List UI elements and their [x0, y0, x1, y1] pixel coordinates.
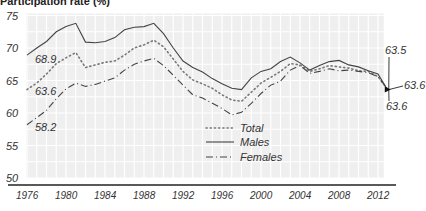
data-label-males: 63.5 [385, 44, 407, 56]
legend-label-females: Females [240, 151, 283, 163]
x-tick-label: 1988 [133, 190, 156, 201]
x-tick-label: 1984 [94, 190, 117, 201]
legend-label-total: Total [240, 122, 264, 134]
y-tick-label: 75 [6, 10, 19, 22]
annotation-arrow [389, 86, 403, 90]
y-tick-label: 70 [6, 42, 19, 54]
data-label-females: 63.6 [386, 100, 408, 112]
x-tick-label: 2008 [327, 190, 351, 201]
x-tick-label: 2004 [288, 190, 312, 201]
data-label-males: 68.9 [35, 53, 56, 65]
data-label-total: 63.6 [35, 85, 57, 97]
y-tick-label: 65 [6, 75, 19, 87]
x-tick-label: 2012 [366, 190, 390, 201]
y-axis-ticks: 505560657075 [6, 10, 19, 185]
data-label-total: 63.6 [404, 79, 426, 91]
x-tick-label: 1992 [172, 190, 195, 201]
y-tick-label: 60 [6, 107, 19, 119]
data-label-females: 58.2 [35, 121, 56, 133]
plot-background [26, 14, 384, 179]
arrowhead-icon [385, 87, 391, 93]
x-axis-ticks: 1976198019841988199219962000200420082012 [16, 190, 390, 201]
x-tick-label: 1980 [55, 190, 78, 201]
y-tick-label: 50 [6, 172, 19, 184]
y-tick-label: 55 [6, 140, 19, 152]
x-tick-label: 1976 [16, 190, 39, 201]
line-chart: 505560657075 197619801984198819921996200… [0, 0, 426, 211]
x-tick-label: 2000 [249, 190, 273, 201]
plot-area [26, 14, 384, 179]
legend-label-males: Males [240, 136, 270, 148]
x-tick-label: 1996 [211, 190, 234, 201]
